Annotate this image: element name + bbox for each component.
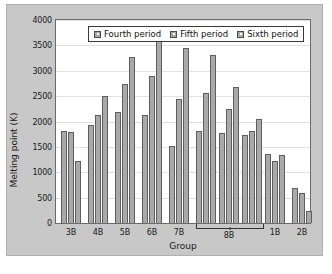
bar[interactable] <box>68 132 74 223</box>
bar-series-container <box>56 20 310 223</box>
bar[interactable] <box>203 93 209 223</box>
bar[interactable] <box>115 112 121 223</box>
y-tick-label: 500 <box>37 193 52 202</box>
y-tick-label: 3500 <box>32 41 52 50</box>
x-tick-label: 5B <box>120 228 131 237</box>
bar-group-8b <box>242 20 262 223</box>
bar-group-8b <box>219 20 239 223</box>
x-axis-title: Group <box>55 241 311 251</box>
bar[interactable] <box>196 131 202 223</box>
x-tick-label: 6B <box>147 228 158 237</box>
bar[interactable] <box>233 87 239 223</box>
y-tick-label: 0 <box>47 219 52 228</box>
bar[interactable] <box>279 155 285 223</box>
bar[interactable] <box>88 125 94 223</box>
legend-item-fourth-period[interactable]: Fourth period <box>94 29 161 39</box>
y-tick-label: 2000 <box>32 117 52 126</box>
y-tick-label: 4000 <box>32 16 52 25</box>
legend-label: Sixth period <box>247 29 298 39</box>
y-tick-label: 1000 <box>32 168 52 177</box>
x-tick-label: 8B <box>224 231 235 240</box>
bar[interactable] <box>226 109 232 223</box>
legend-label: Fifth period <box>180 29 228 39</box>
x-tick-label: 4B <box>93 228 104 237</box>
bar-group-5b <box>115 20 135 223</box>
legend-item-sixth-period[interactable]: Sixth period <box>237 29 298 39</box>
bar[interactable] <box>265 154 271 223</box>
y-tick-label: 3000 <box>32 66 52 75</box>
legend-label: Fourth period <box>104 29 161 39</box>
bar[interactable] <box>102 96 108 223</box>
bar[interactable] <box>306 211 312 223</box>
bar[interactable] <box>210 55 216 223</box>
x-tick-label: 7B <box>174 228 185 237</box>
bar-group-8b <box>196 20 216 223</box>
bar[interactable] <box>95 115 101 223</box>
bar[interactable] <box>219 133 225 223</box>
bar[interactable] <box>169 146 175 223</box>
x-axis-ticks: 3B4B5B6B7B1B2B8B <box>55 224 311 240</box>
bar[interactable] <box>176 99 182 223</box>
bar[interactable] <box>142 115 148 223</box>
legend-swatch-icon <box>170 31 177 38</box>
bar[interactable] <box>156 36 162 223</box>
y-axis-title: Melting point (K) <box>9 95 19 205</box>
bar[interactable] <box>272 161 278 223</box>
bar-group-3b <box>61 20 81 223</box>
legend-item-fifth-period[interactable]: Fifth period <box>170 29 228 39</box>
legend-swatch-icon <box>237 31 244 38</box>
legend-swatch-icon <box>94 31 101 38</box>
bar[interactable] <box>292 188 298 223</box>
bar[interactable] <box>183 48 189 223</box>
bar-group-1b <box>265 20 285 223</box>
bar[interactable] <box>149 76 155 223</box>
x-tick-label: 3B <box>66 228 77 237</box>
bar[interactable] <box>129 57 135 223</box>
bar-group-6b <box>142 20 162 223</box>
group-bracket <box>196 224 264 229</box>
bar[interactable] <box>75 161 81 223</box>
bracket-nub <box>230 227 231 230</box>
x-tick-label: 1B <box>270 228 281 237</box>
bar[interactable] <box>299 193 305 223</box>
x-tick-label: 2B <box>297 228 308 237</box>
bar-group-7b <box>169 20 189 223</box>
bar[interactable] <box>122 84 128 223</box>
bar[interactable] <box>249 131 255 223</box>
bar[interactable] <box>242 135 248 223</box>
chart-figure: Melting point (K) 0500100015002000250030… <box>6 4 323 256</box>
bar-group-2b <box>292 20 312 223</box>
plot-area: 05001000150020002500300035004000 Fourth … <box>55 19 311 224</box>
y-tick-label: 2500 <box>32 92 52 101</box>
chart-legend: Fourth period Fifth period Sixth period <box>88 26 304 42</box>
bar-group-4b <box>88 20 108 223</box>
bar[interactable] <box>61 131 67 223</box>
bar[interactable] <box>256 119 262 223</box>
y-tick-label: 1500 <box>32 142 52 151</box>
